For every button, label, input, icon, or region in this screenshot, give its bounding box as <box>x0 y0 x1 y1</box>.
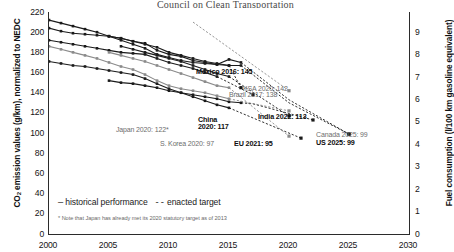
data-point-marker <box>60 22 63 25</box>
data-point-marker <box>156 49 159 52</box>
data-point-marker <box>120 45 123 48</box>
annotation-eu: EU 2021: 95 <box>234 140 273 148</box>
data-point-marker <box>180 91 183 94</box>
data-point-marker <box>156 46 159 49</box>
y-axis-left-tick: 140 <box>20 87 44 97</box>
y-axis-left-tick: 60 <box>20 168 44 178</box>
y-axis-right-tick: 2 <box>415 184 439 194</box>
data-point-marker <box>216 84 219 87</box>
data-point-marker <box>72 64 75 67</box>
data-point-marker <box>204 91 207 94</box>
data-point-marker <box>72 25 75 28</box>
data-point-marker <box>204 95 207 98</box>
data-point-marker <box>144 73 147 76</box>
data-point-marker <box>120 71 123 74</box>
y-axis-right-tick: 7 <box>415 72 439 82</box>
data-point-marker <box>204 60 207 63</box>
y-axis-right-tick: 6 <box>415 94 439 104</box>
data-point-marker <box>144 84 147 87</box>
y-axis-left-tick: 100 <box>20 128 44 138</box>
data-point-marker <box>168 84 171 87</box>
target-endpoint-marker <box>299 137 302 140</box>
data-point-marker <box>144 51 147 54</box>
data-point-marker <box>108 35 111 38</box>
y-axis-right-tick: 9 <box>415 27 439 37</box>
data-point-marker <box>84 54 87 57</box>
y-axis-right-tick: 3 <box>415 161 439 171</box>
annotation-china2: 2020: 117 <box>198 123 229 131</box>
data-point-marker <box>168 87 171 90</box>
data-point-marker <box>180 72 183 75</box>
data-point-marker <box>132 40 135 43</box>
data-point-marker <box>204 80 207 83</box>
x-axis-tick: 2015 <box>208 240 248 250</box>
data-point-marker <box>108 69 111 72</box>
series-india <box>108 79 243 104</box>
data-point-marker <box>228 58 231 61</box>
data-point-marker <box>96 67 99 70</box>
annotation-us: US 2025: 99 <box>316 139 355 147</box>
data-point-marker <box>132 82 135 85</box>
data-point-marker <box>216 104 219 107</box>
series-line <box>109 81 241 103</box>
data-point-marker <box>204 100 207 103</box>
data-point-marker <box>192 67 195 70</box>
data-point-marker <box>168 57 171 60</box>
data-point-marker <box>132 73 135 76</box>
data-point-marker <box>132 52 135 55</box>
data-point-marker <box>49 60 50 63</box>
data-point-marker <box>156 79 159 82</box>
x-axis-tick: 2025 <box>328 240 368 250</box>
data-point-marker <box>144 43 147 46</box>
data-point-marker <box>216 97 219 100</box>
y-axis-left-tick: 180 <box>20 47 44 57</box>
y-axis-left-title-post: emission values (g/km), normalized to NE… <box>12 18 22 192</box>
data-point-marker <box>192 95 195 98</box>
data-point-marker <box>72 32 75 35</box>
x-axis-tick: 2020 <box>268 240 308 250</box>
series-line <box>229 99 289 111</box>
data-point-marker <box>192 61 195 64</box>
y-axis-right-tick: 5 <box>415 116 439 126</box>
data-point-marker <box>180 54 183 57</box>
partial-header-text: Council on Clean Transportation <box>0 0 451 8</box>
data-point-marker <box>108 51 111 54</box>
data-point-marker <box>60 48 63 51</box>
legend-target-dash: -- <box>155 198 165 208</box>
y-axis-left-tick: 200 <box>20 27 44 37</box>
y-axis-right-tick: 0 <box>415 229 439 239</box>
y-axis-right-tick: 8 <box>415 49 439 59</box>
data-point-marker <box>84 33 87 36</box>
data-point-marker <box>192 57 195 60</box>
data-point-marker <box>96 31 99 34</box>
annotation-skorea: S. Korea 2020: 97 <box>160 140 214 147</box>
data-point-marker <box>96 57 99 60</box>
data-point-marker <box>192 64 195 67</box>
data-point-marker <box>72 51 75 54</box>
data-point-marker <box>84 65 87 68</box>
data-point-marker <box>156 82 159 85</box>
legend-historical-label: historical performance <box>65 197 147 207</box>
x-axis-tick: 2030 <box>388 240 428 250</box>
data-point-marker <box>168 68 171 71</box>
y-axis-right-tick: 4 <box>415 139 439 149</box>
data-point-marker <box>180 87 183 90</box>
data-point-marker <box>120 51 123 54</box>
data-point-marker <box>96 34 99 37</box>
series-canada-target <box>241 62 351 135</box>
series-line <box>109 36 229 65</box>
y-axis-right-tick: 1 <box>415 206 439 216</box>
footnote-text: * Note that Japan has already met its 20… <box>58 215 227 221</box>
data-point-marker <box>72 43 75 46</box>
series-saudi-arabia-ksa- <box>193 22 291 92</box>
legend-historical-dash: — <box>58 198 63 208</box>
data-point-marker <box>108 61 111 64</box>
data-point-marker <box>49 27 50 30</box>
data-point-marker <box>60 30 63 33</box>
x-axis-tick: 2010 <box>148 240 188 250</box>
data-point-marker <box>156 64 159 67</box>
data-point-marker <box>108 79 111 82</box>
data-point-marker <box>120 54 123 57</box>
annotation-brazil: Brazil 2017: 138 <box>229 91 277 98</box>
data-point-marker <box>132 68 135 71</box>
